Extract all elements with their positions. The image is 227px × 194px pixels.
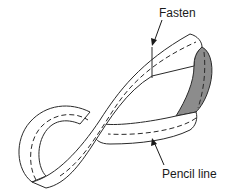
pencil-arrow-line	[154, 142, 164, 165]
pencil-line-label: Pencil line	[162, 167, 217, 181]
fasten-arrowhead-icon	[151, 38, 157, 46]
mobius-strip-figure	[0, 0, 227, 194]
fasten-label: Fasten	[159, 6, 196, 20]
fasten-arrow-line	[154, 20, 162, 42]
